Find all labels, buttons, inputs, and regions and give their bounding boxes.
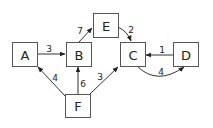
edge-d-c: 1 — [146, 45, 173, 55]
edge-weight: 1 — [159, 45, 165, 55]
edge-weight: 6 — [80, 79, 86, 89]
edge-f-b: 6 — [78, 67, 86, 94]
edge-e-c: 2 — [118, 25, 134, 41]
edge-weight: 4 — [52, 73, 58, 83]
node-b: B — [67, 43, 92, 67]
node-f: F — [66, 95, 91, 118]
graph-diagram: 3 7 2 1 4 4 6 3 A B C D — [0, 0, 213, 128]
node-label: F — [74, 99, 81, 114]
node-d: D — [174, 43, 199, 67]
node-label: A — [21, 48, 30, 63]
edge-c-d: 4 — [137, 66, 184, 77]
edge-weight: 7 — [77, 26, 83, 36]
edge-weight: 4 — [158, 67, 164, 77]
node-label: E — [102, 19, 110, 34]
edge-f-c: 3 — [90, 67, 118, 94]
edge-weight: 3 — [46, 44, 52, 54]
edge-weight: 2 — [128, 25, 134, 35]
node-c: C — [121, 43, 146, 67]
edge-b-e: 7 — [77, 26, 92, 42]
edge-a-b: 3 — [37, 44, 65, 54]
node-label: B — [75, 48, 84, 63]
node-a: A — [13, 43, 38, 67]
edge-weight: 3 — [97, 72, 103, 82]
node-label: C — [128, 48, 137, 63]
node-label: D — [181, 48, 191, 63]
node-e: E — [94, 14, 119, 38]
edge-f-a: 4 — [38, 67, 65, 96]
